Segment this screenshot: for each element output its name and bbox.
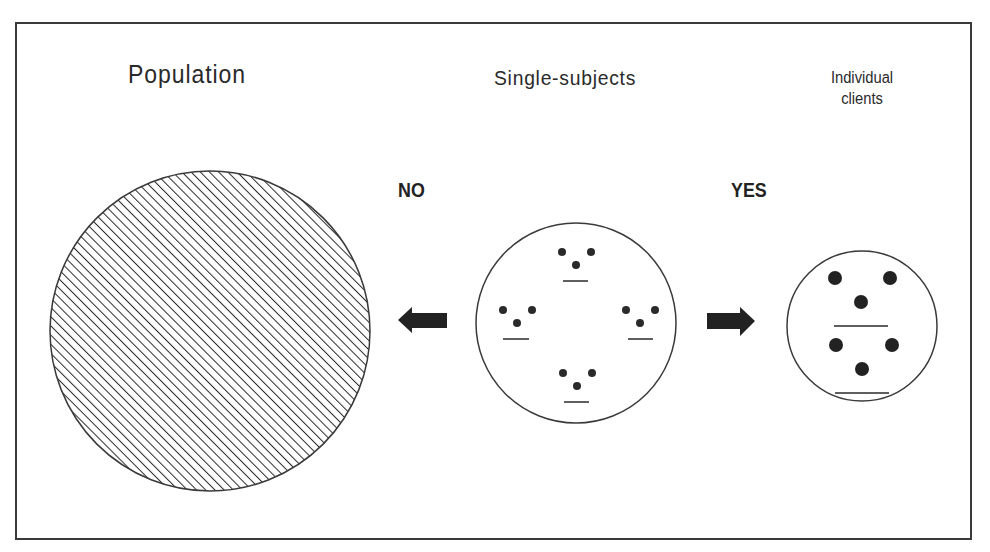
single-subjects-circle <box>476 223 676 423</box>
diagram-canvas <box>0 0 990 552</box>
arrow-right-icon <box>707 307 755 336</box>
individual-clients-circle <box>787 251 937 401</box>
population-circle <box>50 171 370 491</box>
arrow-left-icon <box>398 307 447 333</box>
